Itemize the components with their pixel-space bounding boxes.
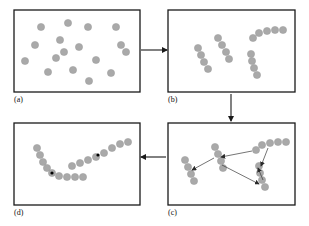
chain-bottom-right-dot-3 xyxy=(253,71,260,78)
chain-bottom-right-dot-2 xyxy=(250,64,257,71)
panel-b-label: (b) xyxy=(168,95,177,104)
chain-mid-dot-1 xyxy=(218,41,225,48)
chain-top-right-dot-0 xyxy=(252,146,259,153)
curve-upper-right-dot-4 xyxy=(100,149,107,156)
chain-left-dot-1 xyxy=(184,163,191,170)
curve-lower-left-dot-6 xyxy=(63,173,70,180)
chain-left-dot-2 xyxy=(187,170,194,177)
panel-a-dot-4 xyxy=(56,36,63,43)
panel-a-dot-1 xyxy=(64,19,71,26)
clustering-stages-figure xyxy=(0,0,309,226)
chain-bottom-right-dot-0 xyxy=(255,162,262,169)
curve-upper-right-dot-2 xyxy=(84,156,91,163)
chain-top-right-dot-3 xyxy=(271,26,278,33)
curve-lower-left-dot-7 xyxy=(71,173,78,180)
panel-a-dot-7 xyxy=(117,41,124,48)
chain-left-dot-0 xyxy=(194,44,201,51)
chain-left-dot-0 xyxy=(181,156,188,163)
chain-mid-dot-1 xyxy=(214,150,221,157)
panel-a-dot-9 xyxy=(52,54,59,61)
panel-d xyxy=(14,123,140,205)
panel-a-dot-8 xyxy=(21,57,28,64)
panel-a xyxy=(14,10,140,92)
chain-mid-dot-3 xyxy=(225,55,232,62)
curve-upper-right-dot-7 xyxy=(124,138,131,145)
panel-a-dot-5 xyxy=(31,41,38,48)
panel-a-dot-10 xyxy=(92,56,99,63)
panel-a-dot-2 xyxy=(84,23,91,30)
curve-upper-right-dot-0 xyxy=(68,162,75,169)
curve-lower-left-dot-0 xyxy=(33,144,40,151)
chain-left-dot-3 xyxy=(204,65,211,72)
curve-lower-left-dot-5 xyxy=(55,172,62,179)
panel-d-seed-upper-right xyxy=(96,153,99,156)
chain-top-right-dot-0 xyxy=(249,34,256,41)
chain-mid-dot-2 xyxy=(217,157,224,164)
chain-left-dot-2 xyxy=(200,58,207,65)
panel-a-dot-12 xyxy=(44,68,51,75)
panel-a-border xyxy=(14,10,140,92)
panel-a-dot-13 xyxy=(69,66,76,73)
chain-top-right-dot-3 xyxy=(274,138,281,145)
panel-a-dot-15 xyxy=(85,77,92,84)
panel-b xyxy=(168,10,295,92)
panel-a-dot-6 xyxy=(75,43,82,50)
panel-a-dot-0 xyxy=(37,23,44,30)
panel-a-dot-11 xyxy=(122,48,129,55)
chain-bottom-right-dot-0 xyxy=(247,50,254,57)
panel-b-border xyxy=(168,10,295,92)
panel-a-label: (a) xyxy=(14,95,23,104)
panel-c xyxy=(168,123,295,205)
curve-lower-left-dot-8 xyxy=(79,173,86,180)
chain-mid-dot-0 xyxy=(211,143,218,150)
curve-upper-right-dot-5 xyxy=(108,144,115,151)
chain-bottom-right-dot-3 xyxy=(261,183,268,190)
chain-top-right-dot-1 xyxy=(255,29,262,36)
chain-mid-dot-0 xyxy=(214,34,221,41)
panel-d-seed-lower-left xyxy=(50,171,53,174)
chain-top-right-dot-2 xyxy=(263,27,270,34)
chain-left-dot-3 xyxy=(190,177,197,184)
chain-top-right-dot-1 xyxy=(258,141,265,148)
panel-c-label: (c) xyxy=(168,208,177,217)
panel-a-dot-3 xyxy=(112,23,119,30)
chain-top-right-dot-4 xyxy=(279,26,286,33)
curve-lower-left-dot-1 xyxy=(36,151,43,158)
panel-d-label: (d) xyxy=(14,208,23,217)
chain-mid-dot-2 xyxy=(222,48,229,55)
panel-a-dot-16 xyxy=(60,48,67,55)
chain-top-right-dot-2 xyxy=(266,139,273,146)
chain-left-dot-1 xyxy=(197,51,204,58)
curve-upper-right-dot-1 xyxy=(76,159,83,166)
chain-top-right-dot-4 xyxy=(282,138,289,145)
panel-a-dot-14 xyxy=(107,69,114,76)
chain-bottom-right-dot-1 xyxy=(248,57,255,64)
curve-upper-right-dot-6 xyxy=(116,140,123,147)
